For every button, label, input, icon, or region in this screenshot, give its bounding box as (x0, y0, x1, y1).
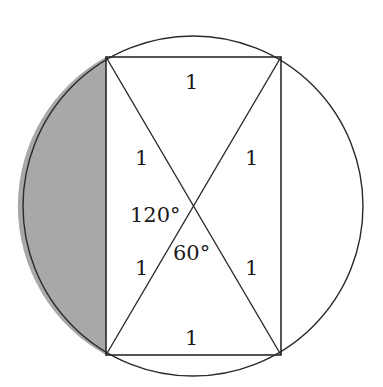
label-upper-left: 1 (135, 146, 148, 170)
label-angle-60: 60° (173, 241, 210, 265)
label-bottom-side: 1 (185, 326, 198, 350)
diagram: 1 1 1 120° 60° 1 1 1 (0, 0, 383, 387)
label-top-side: 1 (185, 70, 198, 94)
label-lower-left: 1 (135, 256, 148, 280)
label-upper-right: 1 (245, 146, 258, 170)
label-lower-right: 1 (245, 256, 258, 280)
label-angle-120: 120° (130, 203, 181, 227)
shaded-segment (18, 57, 106, 355)
